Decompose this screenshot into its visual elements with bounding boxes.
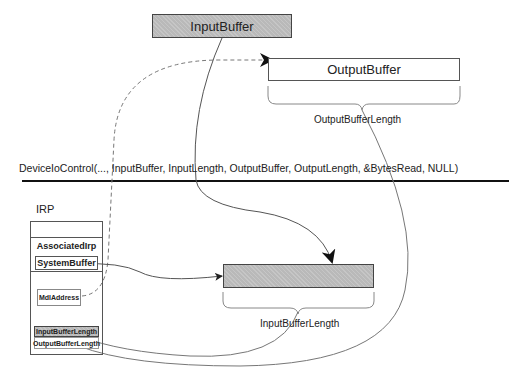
output-length-link [79,110,408,366]
input-buffer-box: InputBuffer [152,14,292,38]
output-buffer-length-label: OutputBufferLength [33,340,100,347]
system-buffer-brace [223,292,374,314]
mdl-address-field: MdlAddress [37,289,81,306]
output-buffer-length-label: OutputBufferLength [314,114,401,125]
device-io-control-call: DeviceIoControl(..., InputBuffer, InputL… [19,162,458,174]
system-buffer-length-label: InputBufferLength [260,318,339,329]
associated-irp-label: AssociatedIrp [31,241,102,251]
input-buffer-length-label: InputBufferLength [36,328,97,335]
system-buffer-box [223,264,374,288]
associated-irp-section: AssociatedIrp SystemBuffer [31,237,102,272]
irp-header-row [31,222,102,238]
input-buffer-length-field: InputBufferLength [34,326,99,337]
mdl-to-output-arrow [82,60,272,296]
output-buffer-length-field: OutputBufferLength [34,337,99,349]
output-buffer-box: OutputBuffer [268,58,460,81]
input-buffer-label: InputBuffer [190,19,253,34]
system-buffer-field: SystemBuffer [35,256,98,270]
system-buffer-label: SystemBuffer [37,258,96,268]
output-buffer-label: OutputBuffer [327,62,400,77]
output-buffer-brace [268,86,460,110]
mdl-address-label: MdlAddress [39,294,79,301]
irp-label: IRP [36,203,54,215]
irp-structure: AssociatedIrp SystemBuffer MdlAddress In… [30,221,103,355]
